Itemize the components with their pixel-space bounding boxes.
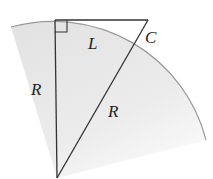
geometry-diagram: R L C R [0,0,213,179]
label-point-c: C [145,28,157,47]
label-tangent-segment: L [87,34,97,53]
circular-sector [11,21,206,178]
label-hypotenuse-radius: R [107,102,119,121]
label-vertical-radius: R [30,80,42,99]
